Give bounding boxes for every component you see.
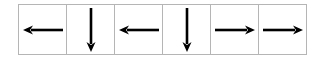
arrow-down-icon (68, 7, 114, 53)
arrow-right-icon (212, 7, 258, 53)
cell-6 (259, 5, 307, 54)
arrow-right-icon (260, 7, 306, 53)
cell-4 (163, 5, 211, 54)
arrow-left-icon (116, 7, 162, 53)
arrow-left-icon (20, 7, 66, 53)
cell-1 (19, 5, 67, 54)
arrow-down-icon (164, 7, 210, 53)
arrow-sequence (18, 4, 307, 55)
cell-2 (67, 5, 115, 54)
cell-3 (115, 5, 163, 54)
cell-5 (211, 5, 259, 54)
